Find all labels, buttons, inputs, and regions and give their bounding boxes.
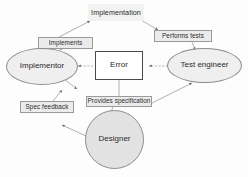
node-provides-specification-label: Provides specification (87, 98, 152, 105)
node-implementor-label: Implementor (19, 62, 65, 70)
node-implementation[interactable]: Implementation (88, 4, 144, 21)
node-test-engineer-label: Test engineer (179, 61, 229, 69)
node-test-engineer[interactable]: Test engineer (167, 48, 242, 83)
node-implementor[interactable]: Implementor (6, 48, 78, 85)
edge-implementation-performs-tests (141, 20, 158, 30)
node-provides-specification[interactable]: Provides specification (86, 96, 152, 107)
node-implements-label: Implements (48, 40, 84, 47)
node-designer-label: Designer (97, 135, 131, 143)
node-performs-tests-label: Performs tests (161, 33, 205, 40)
node-implementation-label: Implementation (90, 9, 142, 17)
node-error-label: Error (109, 61, 129, 69)
edge-implements-implementation (59, 21, 90, 37)
node-error[interactable]: Error (95, 51, 143, 80)
edge-implementor-provides-specification (64, 79, 77, 89)
node-spec-feedback[interactable]: Spec feedback (20, 101, 74, 113)
edge-provides-specification-test-engineer (152, 83, 192, 103)
node-spec-feedback-label: Spec feedback (25, 104, 70, 111)
edge-spec-feedback-implementor (53, 90, 62, 101)
node-performs-tests[interactable]: Performs tests (154, 30, 212, 42)
node-designer[interactable]: Designer (85, 110, 144, 169)
diagram-canvas: Implementation Implements Performs tests… (0, 0, 248, 177)
